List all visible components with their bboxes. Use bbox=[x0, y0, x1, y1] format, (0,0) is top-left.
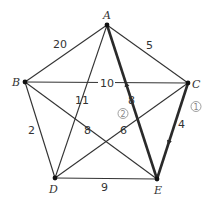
vertex-label-E: E bbox=[153, 184, 162, 197]
vertex-B bbox=[23, 80, 28, 85]
edge-weight-BC: 10 bbox=[100, 77, 114, 90]
graph-diagram: 205101188264912ABCDE bbox=[0, 0, 211, 199]
edge-weight-AE: 8 bbox=[128, 94, 135, 107]
vertex-D bbox=[53, 176, 58, 181]
vertex-label-D: D bbox=[48, 183, 58, 196]
vertex-label-A: A bbox=[102, 9, 111, 22]
order-marker-2: 2 bbox=[120, 110, 125, 119]
edge-BE bbox=[25, 82, 157, 179]
edge-CE bbox=[157, 83, 188, 179]
vertex-label-B: B bbox=[11, 76, 20, 89]
edge-weight-DE: 9 bbox=[101, 181, 108, 194]
vertex-label-C: C bbox=[192, 78, 201, 91]
edge-AB bbox=[25, 25, 107, 82]
edge-weight-CD: 6 bbox=[120, 124, 127, 137]
edge-weight-CE: 4 bbox=[178, 118, 185, 131]
vertex-A bbox=[105, 23, 110, 28]
edge-DE bbox=[55, 178, 157, 179]
graph-canvas: 205101188264912ABCDE bbox=[0, 0, 211, 199]
edge-weight-AD: 11 bbox=[75, 94, 89, 107]
vertex-C bbox=[186, 81, 191, 86]
vertex-E bbox=[155, 177, 160, 182]
edge-weight-BD: 2 bbox=[28, 124, 35, 137]
order-marker-1: 1 bbox=[193, 103, 198, 112]
edge-AC bbox=[107, 25, 188, 83]
edge-weight-AC: 5 bbox=[146, 39, 153, 52]
edge-weight-BE: 8 bbox=[84, 124, 91, 137]
edge-weight-AB: 20 bbox=[53, 38, 67, 51]
